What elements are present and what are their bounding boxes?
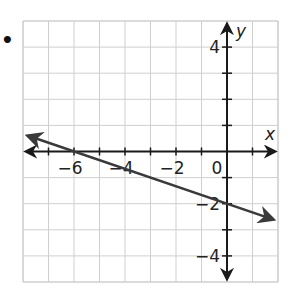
x-tick-label: −6 — [57, 158, 82, 178]
y-axis-label: y — [235, 21, 247, 41]
coordinate-plane: −6−4−204−2−4xy — [0, 0, 293, 292]
x-axis-label: x — [264, 124, 276, 144]
x-tick-label: 0 — [212, 158, 223, 178]
x-tick-label: −2 — [159, 158, 184, 178]
tick-labels: −6−4−204−2−4xy — [57, 21, 276, 266]
y-tick-label: 4 — [209, 37, 220, 57]
y-tick-label: −4 — [195, 246, 220, 266]
